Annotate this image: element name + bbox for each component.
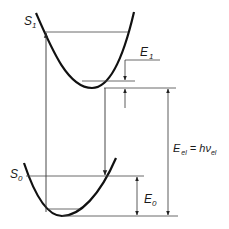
e1-label: E1: [140, 45, 153, 61]
s0-potential-curve: [24, 158, 116, 216]
s0-label: S0: [10, 167, 23, 183]
e0-label: E0: [144, 192, 157, 208]
s1-label: S1: [24, 14, 36, 30]
s1-potential-curve: [36, 12, 134, 88]
eel-label: Eel = hνel: [173, 142, 217, 156]
energy-diagram: S1 S0 E1 E0 Eel = hνel: [0, 0, 229, 229]
